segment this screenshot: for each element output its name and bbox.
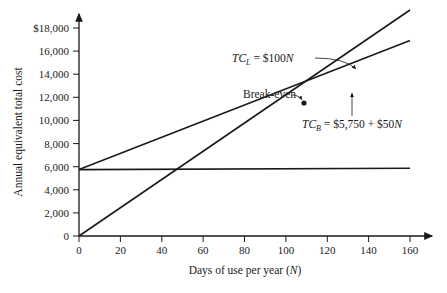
tcb-annotation: TCB = $5,750 + $50N	[302, 118, 403, 133]
break-even-chart: 0 2,000 4,000 6,000 8,000 10,000 12,000 …	[0, 0, 447, 293]
svg-text:160: 160	[402, 244, 419, 256]
svg-text:20: 20	[115, 244, 127, 256]
y-axis-title: Annual equivalent total cost	[12, 67, 25, 197]
svg-text:0: 0	[76, 244, 82, 256]
svg-text:10,000: 10,000	[39, 114, 70, 126]
break-even-point	[301, 100, 306, 105]
x-axis-title: Days of use per year (N)	[189, 264, 302, 277]
svg-text:6,000: 6,000	[44, 161, 69, 173]
svg-text:$18,000: $18,000	[33, 22, 69, 34]
fixed-cost-line	[79, 168, 410, 169]
svg-text:60: 60	[198, 244, 210, 256]
svg-text:16,000: 16,000	[39, 45, 70, 57]
y-ticks	[73, 28, 79, 236]
x-tick-labels: 0 20 40 60 80 100 120 140 160	[76, 244, 419, 256]
svg-text:140: 140	[360, 244, 377, 256]
svg-text:0: 0	[64, 230, 70, 242]
svg-text:100: 100	[278, 244, 295, 256]
svg-text:8,000: 8,000	[44, 138, 69, 150]
break-even-label: Break-even	[243, 88, 296, 100]
svg-text:40: 40	[156, 244, 168, 256]
svg-text:120: 120	[319, 244, 336, 256]
svg-text:80: 80	[239, 244, 251, 256]
svg-text:4,000: 4,000	[44, 184, 69, 196]
svg-text:2,000: 2,000	[44, 207, 69, 219]
x-ticks	[79, 236, 410, 242]
svg-text:14,000: 14,000	[39, 68, 70, 80]
svg-text:12,000: 12,000	[39, 91, 70, 103]
tcl-annotation: TCL = $100N	[232, 52, 295, 67]
y-tick-labels: 0 2,000 4,000 6,000 8,000 10,000 12,000 …	[33, 22, 69, 242]
